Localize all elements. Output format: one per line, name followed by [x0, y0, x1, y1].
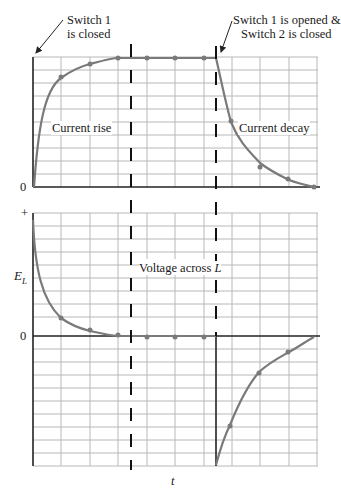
switch1-closed-arrow — [36, 20, 63, 53]
voltage-across-L: L — [214, 261, 221, 275]
current-decay-label: Current decay — [238, 121, 310, 135]
bottom-zero-tick: 0 — [20, 329, 26, 343]
current-rise-label: Current rise — [51, 121, 112, 135]
switch1-opened-label-line1: Switch 1 is opened & — [233, 13, 341, 27]
switch1-closed-label-line2: is closed — [67, 27, 110, 41]
top-zero-tick: 0 — [20, 180, 26, 194]
bottom-axes — [33, 213, 320, 466]
ylabel-sub: L — [22, 276, 27, 286]
ylabel-main: E — [14, 268, 22, 283]
x-axis-label: t — [171, 474, 174, 488]
bottom-y-axis-label: EL — [14, 269, 27, 288]
voltage-across-text: Voltage across — [139, 261, 214, 275]
switch1-opened-label-line2: Switch 2 is closed — [241, 27, 332, 41]
switch1-closed-label-line1: Switch 1 — [67, 13, 111, 27]
bottom-plus-tick: + — [21, 206, 28, 220]
voltage-across-label: Voltage across L — [139, 261, 221, 275]
switch1-opened-arrow — [221, 21, 232, 52]
bottom-grid — [33, 213, 318, 466]
dashed-separators — [131, 44, 216, 470]
